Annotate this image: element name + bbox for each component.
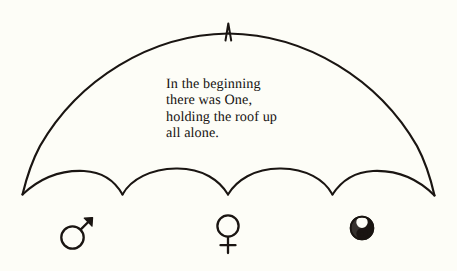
umbrella-scallop-2	[123, 168, 229, 194]
umbrella-scallop-4	[333, 171, 435, 196]
illustration-canvas: In the beginning there was One, holding …	[0, 0, 457, 271]
umbrella-scallop-1	[23, 171, 123, 195]
yin-yang-symbol	[351, 217, 374, 240]
umbrella-finial-icon	[226, 24, 232, 41]
caption-text: In the beginning there was One, holding …	[166, 76, 306, 141]
venus-symbol	[217, 215, 238, 253]
umbrella-scallop-3	[228, 168, 333, 194]
mars-symbol	[61, 218, 92, 249]
